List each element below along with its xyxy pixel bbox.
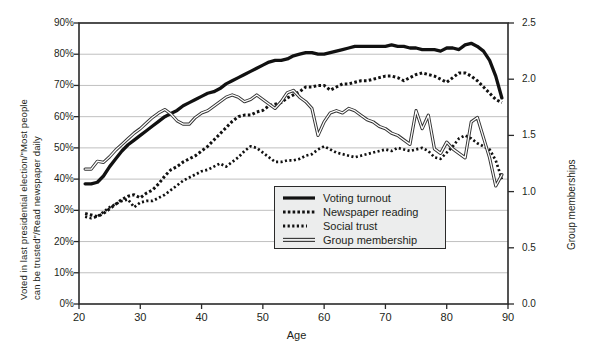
series-line-group-membership-outer — [85, 90, 502, 186]
plot-frame — [79, 23, 508, 304]
legend-label-group-membership: Group membership — [323, 234, 417, 246]
chart-container: Voted in last presidential election/"Mos… — [0, 0, 593, 357]
legend-item-voting-turnout: Voting turnout — [281, 191, 439, 205]
chart-legend: Voting turnout Newspaper reading Social … — [274, 186, 446, 249]
legend-key-double-thin — [281, 234, 317, 246]
legend-item-newspaper-reading: Newspaper reading — [281, 205, 439, 219]
legend-key-dotted-bold — [281, 206, 317, 218]
plot-area — [0, 0, 593, 357]
legend-item-group-membership: Group membership — [281, 233, 439, 247]
legend-item-social-trust: Social trust — [281, 219, 439, 233]
series-line-voting-turnout — [85, 43, 502, 184]
legend-key-solid-thick — [281, 192, 317, 204]
legend-label-voting-turnout: Voting turnout — [323, 192, 391, 204]
legend-label-newspaper-reading: Newspaper reading — [323, 206, 418, 218]
series-line-group-membership-inner — [85, 90, 502, 186]
legend-key-dotted-fine — [281, 220, 317, 232]
legend-label-social-trust: Social trust — [323, 220, 377, 232]
tick-marks — [74, 23, 514, 309]
